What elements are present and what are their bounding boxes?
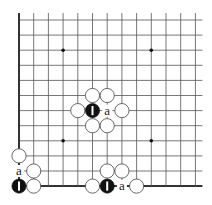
- go-board-diagram: aaa: [0, 0, 212, 205]
- white-stone: [100, 119, 114, 133]
- move-number-1-marker: [18, 182, 20, 191]
- white-stone: [115, 164, 129, 178]
- white-stone: [71, 104, 85, 118]
- star-point: [61, 139, 65, 143]
- white-stone: [12, 149, 26, 163]
- white-stone: [27, 179, 41, 193]
- white-stone: [85, 88, 99, 102]
- star-point: [150, 48, 154, 52]
- move-number-1-marker: [92, 106, 94, 115]
- point-label-a: a: [16, 163, 22, 178]
- white-stone: [100, 164, 114, 178]
- white-stone: [115, 104, 129, 118]
- point-label-a: a: [104, 103, 110, 118]
- star-point: [61, 48, 65, 52]
- white-stone: [27, 164, 41, 178]
- white-stone: [85, 119, 99, 133]
- white-stone: [100, 88, 114, 102]
- white-stone: [130, 179, 144, 193]
- point-label-a: a: [119, 178, 125, 193]
- move-number-1-marker: [106, 182, 108, 191]
- white-stone: [85, 179, 99, 193]
- star-point: [150, 139, 154, 143]
